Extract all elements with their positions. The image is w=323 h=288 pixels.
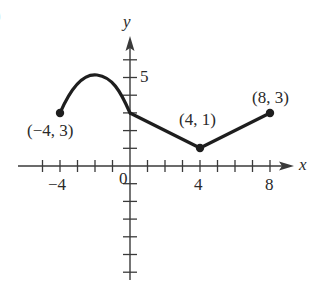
x-tick-label-4: 4	[194, 176, 203, 193]
point-label-neg4-3: (−4, 3)	[27, 122, 73, 139]
graph-curve-arc	[60, 75, 130, 113]
point-label-4-1: (4, 1)	[179, 111, 216, 128]
y-tick-label-5: 5	[140, 68, 149, 85]
point-marker-4-1	[196, 144, 204, 152]
x-tick-label-neg4: −4	[48, 176, 66, 193]
point-marker-8-3	[266, 109, 274, 117]
point-label-8-3: (8, 3)	[252, 89, 289, 106]
origin-label: 0	[119, 170, 128, 187]
y-axis-label: y	[123, 13, 131, 30]
point-marker-neg4-3	[56, 109, 64, 117]
x-tick-label-8: 8	[265, 176, 274, 193]
x-axis-label: x	[299, 156, 307, 173]
graph-canvas	[0, 0, 323, 288]
